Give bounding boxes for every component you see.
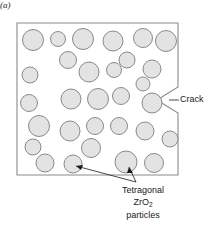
- particles-label-line-1: Tetragonal: [108, 184, 178, 196]
- tetragonal-particle: [115, 151, 137, 173]
- tetragonal-particle: [103, 31, 123, 51]
- zirconia-toughening-figure: Crack Tetragonal ZrO2 particles (a): [0, 0, 211, 227]
- particles-label-line-2: ZrO2: [108, 196, 178, 209]
- tetragonal-particle: [111, 118, 128, 135]
- tetragonal-particle: [136, 122, 154, 140]
- tetragonal-particle: [21, 95, 38, 112]
- tetragonal-particle: [162, 131, 178, 147]
- particles-formula-base: ZrO: [133, 197, 149, 207]
- figure-canvas: [0, 0, 211, 227]
- particles-formula-subscript: 2: [149, 201, 153, 208]
- tetragonal-particles-label: Tetragonal ZrO2 particles: [108, 184, 178, 221]
- particles-label-line-3: particles: [108, 209, 178, 221]
- tetragonal-particle: [22, 67, 38, 83]
- tetragonal-particle: [29, 116, 50, 137]
- tetragonal-particle: [143, 60, 161, 78]
- tetragonal-particle: [119, 52, 135, 68]
- tetragonal-particle: [73, 29, 94, 50]
- tetragonal-particle: [107, 63, 122, 78]
- tetragonal-particle: [87, 118, 104, 135]
- tetragonal-particle: [51, 32, 66, 47]
- tetragonal-particle: [36, 154, 54, 172]
- tetragonal-particle: [64, 155, 82, 173]
- tetragonal-particle: [60, 52, 77, 69]
- crack-label: Crack: [180, 94, 204, 105]
- tetragonal-particle: [23, 30, 44, 51]
- tetragonal-particle: [82, 139, 101, 158]
- tetragonal-particle: [79, 62, 99, 82]
- tetragonal-particle: [60, 121, 80, 141]
- tetragonal-particle: [134, 29, 153, 48]
- tetragonal-particle: [61, 89, 81, 109]
- tetragonal-particle: [142, 93, 162, 113]
- tetragonal-particle: [113, 88, 130, 105]
- tetragonal-particle: [136, 77, 150, 91]
- tetragonal-particle: [156, 31, 177, 52]
- tetragonal-particle: [25, 139, 41, 155]
- tetragonal-particle: [145, 154, 164, 173]
- tetragonal-particle: [88, 89, 109, 110]
